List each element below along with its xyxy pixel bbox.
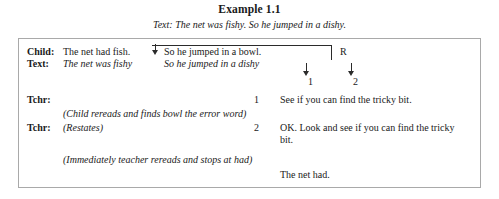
example-source-text: Text: The net was fishy. So he jumped in… <box>0 19 499 30</box>
speaker-label-child: Child: <box>27 46 54 57</box>
speaker-label-text: Text: <box>27 58 49 69</box>
child-utterance-boxed: So he jumped in a bowl. <box>164 46 261 57</box>
speaker-label-tchr-1: Tchr: <box>27 94 51 105</box>
arrow-label-1: 1 <box>299 76 313 87</box>
speaker-label-tchr-2: Tchr: <box>27 122 51 133</box>
response-code-r: R <box>340 46 347 57</box>
stage-direction-1: (Child rereads and finds bowl the error … <box>63 108 246 119</box>
arrow-label-2: 2 <box>344 76 358 87</box>
turn-number-2: 2 <box>245 122 259 133</box>
source-text-plain: The net was fishy <box>63 58 132 69</box>
teacher-action-restates: (Restates) <box>63 122 103 133</box>
teacher-speech-2: OK. Look and see if you can find the tri… <box>280 122 460 145</box>
final-reread-line: The net had. <box>280 169 330 180</box>
turn-number-1: 1 <box>245 94 259 105</box>
page-title: Example 1.1 <box>0 3 499 15</box>
child-utterance-plain: The net had fish. <box>63 46 130 57</box>
teacher-speech-1: See if you can find the tricky bit. <box>280 94 460 106</box>
source-text-boxed: So he jumped in a dishy <box>164 58 259 69</box>
stage-direction-2: (Immediately teacher rereads and stops a… <box>63 154 252 165</box>
